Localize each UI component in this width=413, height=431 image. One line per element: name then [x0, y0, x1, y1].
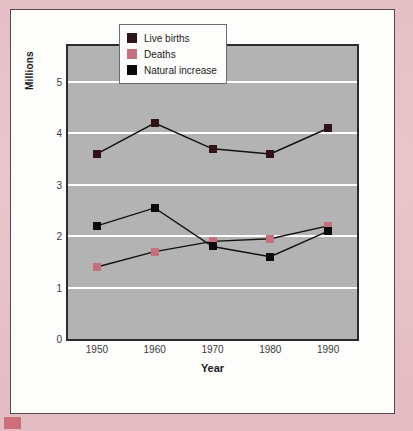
y-axis-tick-labels: 012345	[38, 44, 62, 341]
y-tick-label-2: 2	[40, 231, 62, 242]
legend-swatch-icon	[127, 49, 137, 59]
page-corner-swatch	[4, 417, 21, 429]
x-tick-label-1960: 1960	[144, 344, 166, 355]
x-tick-label-1970: 1970	[201, 344, 223, 355]
y-tick-label-1: 1	[40, 282, 62, 293]
y-tick-label-5: 5	[40, 76, 62, 87]
series-lines	[68, 46, 357, 339]
y-tick-label-0: 0	[40, 334, 62, 345]
plot-area	[66, 44, 359, 341]
y-tick-label-4: 4	[40, 128, 62, 139]
chart-card: Millions 012345 Live birthsDeathsNatural…	[10, 9, 395, 414]
marker-natural-increase-1950	[93, 222, 101, 230]
marker-live-births-1960	[151, 119, 159, 127]
y-tick-label-3: 3	[40, 179, 62, 190]
marker-live-births-1950	[93, 150, 101, 158]
marker-live-births-1980	[266, 150, 274, 158]
marker-live-births-1970	[209, 145, 217, 153]
legend-item-natural-increase: Natural increase	[127, 62, 217, 78]
x-tick-label-1990: 1990	[317, 344, 339, 355]
chart-legend: Live birthsDeathsNatural increase	[119, 24, 227, 84]
marker-natural-increase-1960	[151, 204, 159, 212]
x-axis-title: Year	[66, 362, 359, 374]
y-axis-title: Millions	[24, 51, 35, 90]
legend-item-deaths: Deaths	[127, 46, 217, 62]
marker-deaths-1950	[93, 263, 101, 271]
marker-natural-increase-1990	[324, 227, 332, 235]
legend-item-live-births: Live births	[127, 30, 217, 46]
marker-natural-increase-1970	[209, 242, 217, 250]
legend-label: Live births	[144, 33, 190, 44]
legend-label: Natural increase	[144, 65, 217, 76]
marker-live-births-1990	[324, 124, 332, 132]
x-axis-tick-labels: 19501960197019801990	[66, 344, 359, 360]
marker-deaths-1980	[266, 235, 274, 243]
x-tick-label-1980: 1980	[259, 344, 281, 355]
marker-deaths-1960	[151, 248, 159, 256]
plot-inner	[68, 46, 357, 339]
x-tick-label-1950: 1950	[86, 344, 108, 355]
marker-natural-increase-1980	[266, 253, 274, 261]
legend-swatch-icon	[127, 33, 137, 43]
legend-swatch-icon	[127, 65, 137, 75]
legend-label: Deaths	[144, 49, 176, 60]
